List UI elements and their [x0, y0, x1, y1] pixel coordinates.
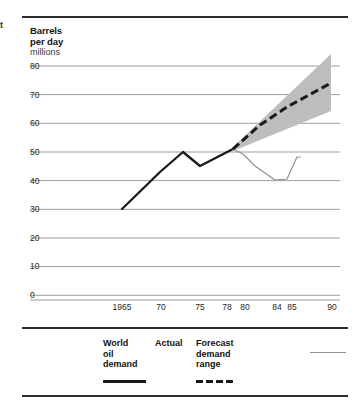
x-tick-label-80: 80: [240, 302, 249, 312]
legend-top-rule: [22, 327, 348, 329]
figure-root: t Barrels per day millions 80: [0, 0, 356, 407]
x-tick-label-85: 85: [287, 302, 296, 312]
legend-label-line-3: demand: [103, 359, 138, 370]
chart-legend: World oil demand Actual Forecast demand …: [0, 338, 356, 388]
y-tick-label-30: 30: [30, 204, 39, 214]
legend-swatch-dashed-line: [196, 380, 236, 383]
y-tick-label-70: 70: [30, 90, 39, 100]
legend-label-line-2: oil: [103, 349, 138, 360]
legend-label-forecast-line-1: Forecast: [196, 338, 234, 349]
actual-line: [233, 149, 300, 180]
legend-swatch-thin-line: [310, 352, 346, 353]
legend-item-actual: Actual: [155, 338, 183, 349]
y-tick-label-0: 0: [30, 290, 35, 300]
legend-label-forecast-line-3: range: [196, 359, 234, 370]
y-tick-label-20: 20: [30, 233, 39, 243]
y-tick-label-40: 40: [30, 176, 39, 186]
legend-item-forecast-demand-range: Forecast demand range: [196, 338, 234, 370]
legend-label-actual: Actual: [155, 338, 183, 349]
y-tick-label-10: 10: [30, 261, 39, 271]
x-tick-label-75: 75: [195, 302, 204, 312]
y-tick-label-80: 80: [30, 61, 39, 71]
legend-label-forecast-line-2: demand: [196, 349, 234, 360]
legend-swatch-solid-line: [103, 380, 146, 383]
x-tick-label-84: 84: [272, 302, 281, 312]
legend-item-world-oil-demand: World oil demand: [103, 338, 138, 370]
world-oil-demand-line: [122, 149, 233, 209]
x-tick-label-90: 90: [327, 302, 336, 312]
bottom-rule: [22, 395, 348, 397]
legend-label-line-1: World: [103, 338, 138, 349]
y-tick-label-60: 60: [30, 118, 39, 128]
x-tick-label-70: 70: [156, 302, 165, 312]
y-tick-label-50: 50: [30, 147, 39, 157]
x-tick-label-78: 78: [222, 302, 231, 312]
x-tick-label-1965: 1965: [113, 302, 132, 312]
